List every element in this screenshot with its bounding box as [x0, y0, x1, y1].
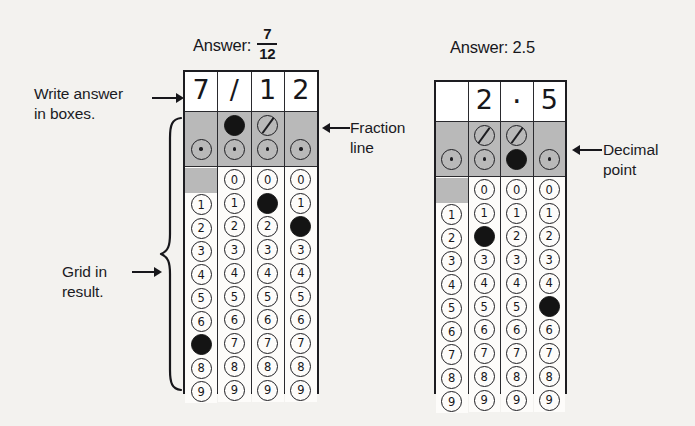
digit-bubble[interactable]: 9 — [539, 390, 560, 411]
digit-bubble[interactable]: 8 — [224, 356, 245, 377]
digit-bubble[interactable]: 8 — [290, 356, 311, 377]
digit-bubble[interactable]: 2 — [539, 226, 560, 247]
write-in-box[interactable]: 1 — [252, 72, 284, 112]
digit-bubble[interactable]: 7 — [441, 344, 462, 365]
digit-bubble[interactable]: 8 — [441, 368, 462, 389]
digit-bubble[interactable]: 3 — [290, 239, 311, 260]
digit-bubble[interactable]: 5 — [257, 286, 278, 307]
write-in-box[interactable]: 5 — [534, 82, 566, 122]
digit-bubble[interactable]: 7 — [224, 333, 245, 354]
decimal-point-bubble[interactable] — [290, 139, 311, 160]
digit-bubble[interactable]: 1 — [257, 193, 278, 214]
digit-bubble[interactable]: 9 — [224, 380, 245, 401]
grid-column[interactable]: 20123456789 — [469, 82, 502, 392]
digit-bubble[interactable]: 5 — [224, 286, 245, 307]
fraction-slash-bubble[interactable] — [224, 115, 245, 136]
grid-column[interactable]: 123456789 — [436, 82, 469, 392]
grid-column[interactable]: 10123456789 — [252, 72, 285, 392]
decimal-point-bubble[interactable] — [257, 139, 278, 160]
digit-bubble[interactable]: 6 — [191, 311, 212, 332]
digit-bubble[interactable]: 6 — [474, 319, 495, 340]
decimal-point-bubble[interactable] — [191, 139, 212, 160]
digit-bubble[interactable]: 3 — [474, 249, 495, 270]
grid-column[interactable]: 7123456789 — [185, 72, 218, 392]
digit-bubble[interactable]: 2 — [474, 226, 495, 247]
digit-bubble[interactable]: 9 — [474, 390, 495, 411]
grid-column[interactable]: 50123456789 — [534, 82, 566, 392]
digit-bubble[interactable]: 3 — [506, 249, 527, 270]
digit-bubble[interactable]: 6 — [224, 309, 245, 330]
digit-bubble[interactable]: 1 — [506, 203, 527, 224]
digit-bubble[interactable]: 4 — [506, 273, 527, 294]
digit-bubble[interactable]: 1 — [474, 203, 495, 224]
digit-bubble[interactable]: 4 — [441, 274, 462, 295]
digit-bubble[interactable]: 4 — [191, 264, 212, 285]
digit-bubble[interactable]: 7 — [539, 343, 560, 364]
digit-bubble[interactable]: 0 — [539, 179, 560, 200]
digit-bubble[interactable]: 2 — [506, 226, 527, 247]
digit-bubble[interactable]: 2 — [290, 216, 311, 237]
answer-grid-right[interactable]: 12345678920123456789.0123456789501234567… — [434, 80, 567, 394]
digit-bubble[interactable]: 4 — [290, 263, 311, 284]
digit-bubble[interactable]: 9 — [290, 380, 311, 401]
digit-bubble[interactable]: 7 — [474, 343, 495, 364]
digit-bubble[interactable]: 5 — [441, 298, 462, 319]
digit-bubble[interactable]: 8 — [539, 366, 560, 387]
digit-bubble[interactable]: 1 — [224, 193, 245, 214]
digit-bubble[interactable]: 6 — [290, 309, 311, 330]
digit-bubble[interactable]: 4 — [224, 263, 245, 284]
digit-bubble[interactable]: 4 — [474, 273, 495, 294]
decimal-point-bubble[interactable] — [474, 149, 495, 170]
digit-bubble[interactable]: 7 — [191, 334, 212, 355]
digit-bubble[interactable]: 3 — [224, 239, 245, 260]
digit-bubble[interactable]: 2 — [257, 216, 278, 237]
decimal-point-bubble[interactable] — [539, 149, 560, 170]
digit-bubble[interactable]: 5 — [539, 296, 560, 317]
digit-bubble[interactable]: 2 — [191, 218, 212, 239]
digit-bubble[interactable]: 8 — [257, 356, 278, 377]
digit-bubble[interactable]: 5 — [474, 296, 495, 317]
digit-bubble[interactable]: 0 — [474, 179, 495, 200]
digit-bubble[interactable]: 5 — [506, 296, 527, 317]
digit-bubble[interactable]: 2 — [224, 216, 245, 237]
digit-bubble[interactable]: 5 — [290, 286, 311, 307]
digit-bubble[interactable]: 8 — [506, 366, 527, 387]
digit-bubble[interactable]: 9 — [441, 391, 462, 412]
digit-bubble[interactable]: 9 — [506, 390, 527, 411]
digit-bubble[interactable]: 3 — [539, 249, 560, 270]
decimal-point-bubble[interactable] — [506, 149, 527, 170]
fraction-slash-bubble[interactable] — [474, 125, 495, 146]
fraction-slash-bubble[interactable] — [506, 125, 527, 146]
fraction-slash-bubble[interactable] — [257, 115, 278, 136]
digit-bubble[interactable]: 7 — [506, 343, 527, 364]
digit-bubble[interactable]: 0 — [506, 179, 527, 200]
digit-bubble[interactable]: 2 — [441, 228, 462, 249]
write-in-box[interactable] — [436, 82, 468, 122]
digit-bubble[interactable]: 9 — [191, 381, 212, 402]
digit-bubble[interactable]: 1 — [539, 203, 560, 224]
decimal-point-bubble[interactable] — [224, 139, 245, 160]
digit-bubble[interactable]: 5 — [191, 288, 212, 309]
digit-bubble[interactable]: 8 — [191, 358, 212, 379]
answer-grid-left[interactable]: 7123456789/01234567891012345678920123456… — [183, 70, 319, 394]
digit-bubble[interactable]: 0 — [224, 169, 245, 190]
digit-bubble[interactable]: 3 — [441, 251, 462, 272]
digit-bubble[interactable]: 9 — [257, 380, 278, 401]
digit-bubble[interactable]: 6 — [539, 319, 560, 340]
digit-bubble[interactable]: 4 — [257, 263, 278, 284]
digit-bubble[interactable]: 6 — [506, 319, 527, 340]
digit-bubble[interactable]: 1 — [441, 204, 462, 225]
grid-column[interactable]: 20123456789 — [285, 72, 317, 392]
digit-bubble[interactable]: 7 — [257, 333, 278, 354]
digit-bubble[interactable]: 3 — [191, 241, 212, 262]
digit-bubble[interactable]: 6 — [441, 321, 462, 342]
write-in-box[interactable]: / — [218, 72, 250, 112]
grid-column[interactable]: /0123456789 — [218, 72, 251, 392]
write-in-box[interactable]: 7 — [185, 72, 217, 112]
digit-bubble[interactable]: 3 — [257, 239, 278, 260]
digit-bubble[interactable]: 1 — [290, 193, 311, 214]
write-in-box[interactable]: . — [501, 82, 533, 122]
digit-bubble[interactable]: 6 — [257, 309, 278, 330]
digit-bubble[interactable]: 1 — [191, 194, 212, 215]
digit-bubble[interactable]: 4 — [539, 273, 560, 294]
